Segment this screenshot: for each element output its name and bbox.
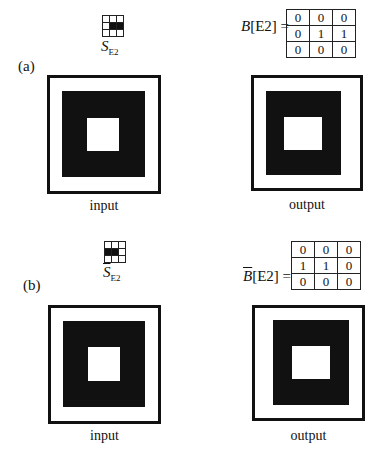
input-white-hole-b — [88, 347, 120, 381]
matrix-var: B — [241, 18, 250, 34]
se-cell — [117, 30, 124, 37]
matrix-cell: 1 — [292, 258, 315, 274]
matrix-label-b: B[E2] = — [243, 268, 291, 285]
panel-label-b: (b) — [23, 277, 41, 294]
matrix-cell: 0 — [338, 242, 361, 258]
se-symbol: S — [103, 264, 111, 280]
se-cell — [103, 23, 110, 30]
se-cell — [105, 242, 112, 249]
se-subscript: E2 — [111, 273, 121, 283]
matrix-cell: 0 — [315, 242, 338, 258]
matrix-var: B — [243, 268, 252, 284]
matrix-cell: 0 — [287, 10, 310, 26]
matrix-cell: 0 — [310, 10, 333, 26]
output-white-hole-b — [292, 346, 330, 379]
input-caption-b: input — [48, 428, 161, 444]
matrix-label-a: B[E2] = — [241, 18, 289, 35]
matrix-label-rest: [E2] = — [252, 268, 291, 284]
se-cell-on — [117, 23, 124, 30]
se-cell-on — [110, 23, 117, 30]
matrix-cell: 1 — [315, 258, 338, 274]
output-caption-b: output — [252, 428, 365, 444]
panel-label-a: (a) — [18, 58, 35, 75]
matrix-cell: 0 — [292, 242, 315, 258]
se-cell — [119, 242, 126, 249]
matrix-cell: 0 — [287, 42, 310, 58]
matrix-cell: 0 — [333, 10, 356, 26]
matrix-cell: 0 — [292, 274, 315, 290]
matrix-cell: 1 — [333, 26, 356, 42]
matrix-label-rest: [E2] = — [250, 18, 289, 34]
se-cell-on — [112, 249, 119, 256]
se-cell — [112, 242, 119, 249]
se-cell — [117, 16, 124, 23]
matrix-cell: 0 — [310, 42, 333, 58]
se-cell — [119, 256, 126, 263]
matrix-cell: 0 — [287, 26, 310, 42]
se-subscript: E2 — [109, 47, 119, 57]
matrix-cell: 0 — [315, 274, 338, 290]
se-symbol: S — [101, 38, 109, 54]
se-cell — [110, 16, 117, 23]
matrix-cell: 1 — [310, 26, 333, 42]
se-cell — [110, 30, 117, 37]
matrix-a: 000 011 000 — [286, 9, 356, 58]
se-cell — [119, 249, 126, 256]
structuring-element-grid-a — [102, 15, 124, 37]
input-caption-a: input — [47, 198, 161, 214]
output-caption-a: output — [251, 197, 363, 213]
matrix-cell: 0 — [338, 258, 361, 274]
input-white-hole-a — [87, 118, 119, 151]
structuring-element-name-a: SE2 — [101, 38, 119, 57]
se-cell — [112, 256, 119, 263]
se-cell — [105, 256, 112, 263]
matrix-cell: 0 — [338, 274, 361, 290]
se-cell — [103, 30, 110, 37]
se-cell — [103, 16, 110, 23]
matrix-cell: 0 — [333, 42, 356, 58]
structuring-element-grid-b — [104, 241, 126, 263]
structuring-element-name-b: SE2 — [103, 264, 121, 283]
matrix-b: 000 110 000 — [291, 241, 361, 290]
se-cell-on — [105, 249, 112, 256]
output-white-hole-a — [284, 117, 322, 150]
